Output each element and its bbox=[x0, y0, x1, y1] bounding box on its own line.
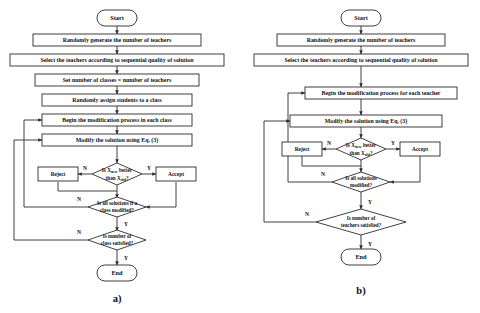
panel-b-decision-all-modified-line2: modified? bbox=[350, 182, 373, 188]
panel-a-decision-all-modified-line2: class modified? bbox=[100, 207, 134, 213]
panel-b-better-yes-label: Y bbox=[391, 140, 395, 146]
panel-a-start-label: Start bbox=[110, 14, 125, 21]
panel-a-decision-all-modified-node: Is all solutions if a class modified? bbox=[88, 197, 146, 217]
panel-b-end-node: End bbox=[341, 249, 381, 265]
panel-a-number-no-label: N bbox=[77, 229, 81, 235]
panel-b-decision-all-modified-node: Is all solutions modified? bbox=[332, 172, 390, 192]
panel-a-generate-teachers-label: Randomly generate the number of teachers bbox=[63, 37, 172, 43]
panel-b-decision-number-line1: Is number of bbox=[347, 215, 376, 221]
panel-a-caption: a) bbox=[113, 293, 122, 305]
panel-a-reject-label: Reject bbox=[51, 171, 66, 177]
panel-a-decision-number-line1: Is number of bbox=[103, 233, 132, 239]
panel-a-modify-solution-label: Modify the solution using Eq. (3) bbox=[76, 137, 159, 144]
panel-a-all-modified-no-label: N bbox=[77, 196, 81, 202]
panel-a-decision-number-line2: class satisfied? bbox=[101, 240, 134, 246]
flowchart-figure: Start Randomly generate the number of te… bbox=[0, 0, 480, 313]
panel-a-decision-better-node: Is Xnew better than Xold? bbox=[92, 163, 142, 185]
panel-a: Start Randomly generate the number of te… bbox=[10, 10, 224, 305]
panel-a-assign-students-label: Randomly assign students to a class bbox=[72, 97, 162, 103]
panel-a-decision-all-modified-line1: Is all solutions if a bbox=[97, 200, 137, 206]
panel-a-reject-node: Reject bbox=[38, 167, 78, 181]
panel-b-accept-node: Accept bbox=[400, 142, 440, 156]
panel-b-modify-solution-node: Modify the solution using Eq. (3) bbox=[290, 115, 442, 127]
panel-a-start-node: Start bbox=[97, 10, 137, 26]
panel-a-generate-teachers-node: Randomly generate the number of teachers bbox=[33, 34, 201, 46]
panel-b-decision-better-node: Is Xnew better than Xold? bbox=[336, 138, 386, 160]
panel-b: Start Randomly generate the number of te… bbox=[254, 10, 468, 297]
panel-b-caption: b) bbox=[356, 285, 366, 297]
panel-a-decision-number-node: Is number of class satisfied? bbox=[88, 230, 146, 250]
panel-b-modify-solution-label: Modify the solution using Eq. (3) bbox=[325, 118, 408, 125]
panel-a-accept-label: Accept bbox=[168, 171, 184, 177]
panel-b-select-teachers-label: Select the teachers according to sequent… bbox=[284, 57, 438, 63]
panel-b-better-no-label: N bbox=[327, 140, 331, 146]
panel-b-end-label: End bbox=[355, 253, 367, 260]
panel-b-begin-modification-label: Begin the modification process for each … bbox=[322, 90, 441, 96]
panel-a-begin-modification-label: Begin the modification process in each c… bbox=[62, 117, 172, 123]
panel-b-start-label: Start bbox=[354, 14, 369, 21]
panel-a-accept-node: Accept bbox=[156, 167, 196, 181]
panel-b-decision-number-line2: teachers satisfied? bbox=[341, 222, 382, 228]
panel-a-begin-modification-node: Begin the modification process in each c… bbox=[42, 114, 192, 126]
panel-a-better-yes-label: Y bbox=[147, 165, 151, 171]
panel-b-all-modified-yes-label: Y bbox=[368, 199, 372, 205]
panel-b-select-teachers-node: Select the teachers according to sequent… bbox=[254, 54, 468, 66]
panel-b-generate-teachers-label: Randomly generate the number of teachers bbox=[307, 37, 416, 43]
panel-b-reject-label: Reject bbox=[295, 146, 310, 152]
panel-a-all-modified-yes-label: Y bbox=[124, 221, 128, 227]
panel-b-begin-modification-node: Begin the modification process for each … bbox=[305, 87, 457, 99]
panel-a-select-teachers-node: Select the teachers according to sequent… bbox=[10, 54, 224, 66]
panel-b-reject-node: Reject bbox=[282, 142, 322, 156]
panel-b-decision-all-modified-line1: Is all solutions bbox=[345, 175, 377, 181]
panel-b-number-no-label: N bbox=[305, 211, 309, 217]
panel-a-better-no-label: N bbox=[83, 165, 87, 171]
panel-a-modify-solution-node: Modify the solution using Eq. (3) bbox=[42, 134, 192, 146]
panel-b-start-node: Start bbox=[341, 10, 381, 26]
panel-b-decision-number-node: Is number of teachers satisfied? bbox=[316, 209, 406, 235]
panel-a-number-yes-label: Y bbox=[124, 255, 128, 261]
panel-b-all-modified-no-label: N bbox=[321, 171, 325, 177]
panel-a-set-classes-node: Set number of classes = number of teache… bbox=[35, 74, 199, 86]
panel-a-assign-students-node: Randomly assign students to a class bbox=[42, 94, 192, 106]
panel-b-accept-label: Accept bbox=[412, 146, 428, 152]
panel-a-end-node: End bbox=[97, 265, 137, 281]
panel-a-set-classes-label: Set number of classes = number of teache… bbox=[63, 77, 172, 83]
panel-a-end-label: End bbox=[111, 269, 123, 276]
panel-b-number-yes-label: Y bbox=[368, 241, 372, 247]
panel-b-generate-teachers-node: Randomly generate the number of teachers bbox=[277, 34, 445, 46]
panel-a-select-teachers-label: Select the teachers according to sequent… bbox=[40, 57, 194, 63]
